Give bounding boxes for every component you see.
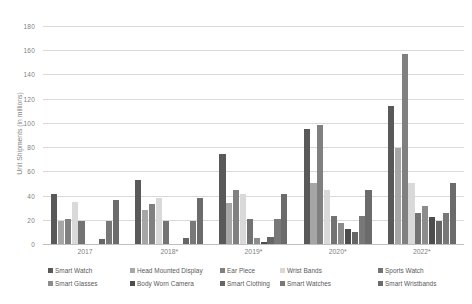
bar-group [219,26,287,244]
legend-item-label: Body Worn Camera [137,280,194,287]
y-tick-label: 140 [24,71,35,78]
bar[interactable] [65,219,71,244]
legend-item[interactable]: Body Worn Camera [130,277,194,290]
legend-item[interactable]: Head Mounted Display [130,264,203,277]
legend-item[interactable]: Ear Piece [220,264,255,277]
bar-group [51,26,119,244]
bar[interactable] [197,198,203,244]
bar[interactable] [422,206,428,244]
chart-legend: Smart WatchHead Mounted DisplayEar Piece… [48,264,466,294]
legend-item-label: Head Mounted Display [137,267,203,274]
x-tick-label: 2022* [380,248,464,255]
legend-swatch-icon [220,281,225,286]
legend-item-label: Smart Clothing [227,280,270,287]
legend-swatch-icon [378,281,383,286]
gridline [43,244,464,245]
bar[interactable] [267,237,273,244]
bar-chart: Unit Shipments (in millions) 02040608010… [0,0,472,304]
bar-group-bars [135,26,203,244]
legend-item[interactable]: Wrist Bands [280,264,322,277]
bar[interactable] [436,221,442,244]
bar[interactable] [72,202,78,244]
bar[interactable] [254,238,260,244]
y-tick-label: 60 [27,168,35,175]
bar[interactable] [338,223,344,244]
legend-item-label: Wrist Bands [287,267,322,274]
y-tick-label: 0 [31,241,35,248]
bar[interactable] [359,216,365,244]
legend-swatch-icon [48,281,53,286]
bar-group [135,26,203,244]
bar[interactable] [99,239,105,244]
bar[interactable] [310,183,316,244]
bar[interactable] [135,180,141,244]
legend-swatch-icon [130,281,135,286]
y-tick-label: 120 [24,95,35,102]
bar[interactable] [226,203,232,244]
bar[interactable] [106,221,112,244]
bar-series-layer [43,26,464,244]
legend-item[interactable]: Smart Watch [48,264,92,277]
bar[interactable] [408,183,414,244]
bar[interactable] [78,221,84,244]
bar[interactable] [149,204,155,244]
bar[interactable] [51,194,57,244]
legend-item-label: Smart Watches [287,280,331,287]
y-tick-label: 40 [27,192,35,199]
legend-swatch-icon [280,268,285,273]
bar[interactable] [274,219,280,244]
legend-row-first: Smart WatchHead Mounted DisplayEar Piece… [48,264,466,277]
bar[interactable] [415,213,421,244]
bar[interactable] [219,154,225,244]
bar[interactable] [58,221,64,244]
x-axis: 20172018*2019*2020*2022* [43,246,464,260]
bar[interactable] [163,221,169,244]
bar-group-bars [219,26,287,244]
legend-item[interactable]: Smart Watches [280,277,331,290]
legend-swatch-icon [220,268,225,273]
bar[interactable] [443,213,449,244]
bar[interactable] [402,54,408,244]
bar[interactable] [450,183,456,244]
y-tick-label: 160 [24,47,35,54]
bar[interactable] [324,190,330,245]
bar-group [304,26,372,244]
bar[interactable] [281,194,287,244]
y-tick-label: 100 [24,119,35,126]
legend-row-second: Smart GlassesBody Worn CameraSmart Cloth… [48,277,466,290]
bar[interactable] [247,219,253,244]
legend-item-label: Smart Watch [55,267,92,274]
bar[interactable] [113,200,119,244]
bar[interactable] [429,217,435,244]
legend-item[interactable]: Sports Watch [378,264,424,277]
bar[interactable] [331,216,337,244]
bar[interactable] [352,232,358,244]
bar[interactable] [183,238,189,244]
bar[interactable] [388,106,394,244]
legend-swatch-icon [280,281,285,286]
bar-group [388,26,456,244]
bar[interactable] [240,194,246,244]
legend-item[interactable]: Smart Wristbands [378,277,436,290]
y-tick-label: 20 [27,216,35,223]
legend-item-label: Smart Glasses [55,280,98,287]
bar[interactable] [233,190,239,245]
legend-item[interactable]: Smart Glasses [48,277,98,290]
bar[interactable] [304,129,310,244]
bar[interactable] [261,242,267,244]
legend-item-label: Sports Watch [385,267,424,274]
bar[interactable] [142,210,148,244]
bar[interactable] [395,148,401,244]
bar[interactable] [345,229,351,244]
bar[interactable] [365,190,371,245]
y-tick-label: 180 [24,23,35,30]
legend-swatch-icon [130,268,135,273]
bar-group-bars [304,26,372,244]
x-tick-label: 2020* [296,248,380,255]
legend-item[interactable]: Smart Clothing [220,277,270,290]
bar[interactable] [317,125,323,244]
legend-swatch-icon [378,268,383,273]
bar[interactable] [156,198,162,244]
bar[interactable] [190,221,196,244]
legend-item-label: Smart Wristbands [385,280,436,287]
